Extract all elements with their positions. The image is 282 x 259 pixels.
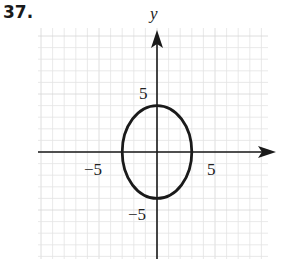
y-axis-label: y bbox=[148, 4, 158, 23]
x-tick-neg5: −5 bbox=[84, 160, 102, 179]
x-tick-5: 5 bbox=[207, 160, 216, 179]
axes bbox=[38, 30, 276, 259]
y-tick-5: 5 bbox=[139, 84, 148, 103]
ellipse-graph: y −5 5 5 −5 bbox=[0, 0, 282, 259]
y-tick-neg5: −5 bbox=[128, 205, 146, 224]
grid bbox=[38, 28, 268, 259]
